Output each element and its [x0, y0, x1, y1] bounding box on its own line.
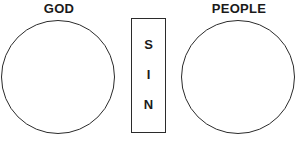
sin-letter-s: S — [144, 38, 153, 51]
sin-barrier-box: S I N — [131, 18, 166, 133]
god-label: GOD — [0, 2, 118, 15]
sin-letter-i: I — [147, 68, 151, 81]
people-label: PEOPLE — [180, 2, 298, 15]
god-circle — [1, 20, 115, 134]
people-circle — [181, 20, 295, 134]
sin-letter-n: N — [144, 98, 153, 111]
diagram-canvas: GOD S I N PEOPLE — [0, 0, 298, 142]
